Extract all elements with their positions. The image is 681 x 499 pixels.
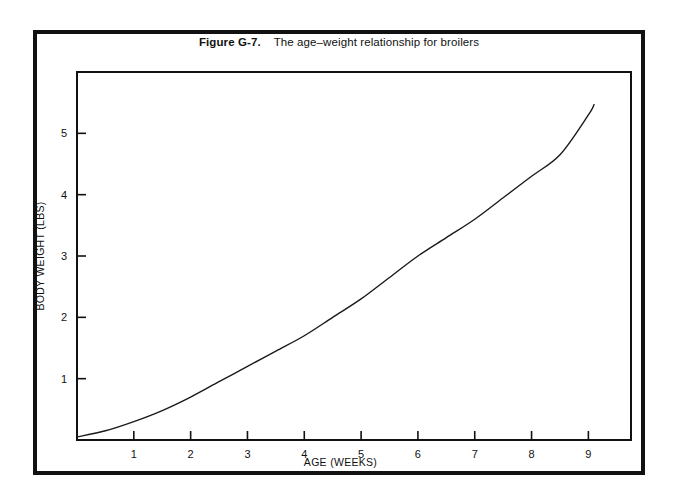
plot-frame — [77, 72, 631, 440]
y-tick-label: 5 — [61, 127, 67, 139]
x-axis-title: AGE (WEEKS) — [0, 456, 681, 468]
y-axis-title: BODY WEIGHT (LBS) — [34, 176, 46, 336]
y-tick-label: 2 — [61, 311, 67, 323]
age-weight-line-chart: 123456789 12345 — [0, 0, 681, 499]
y-tick-label: 4 — [61, 189, 67, 201]
chart-plot-area: 123456789 12345 AGE (WEEKS) BODY WEIGHT … — [0, 0, 681, 499]
figure-page: Figure G-7. The age–weight relationship … — [0, 0, 681, 499]
y-tick-label: 3 — [61, 250, 67, 262]
y-tick-label: 1 — [61, 373, 67, 385]
